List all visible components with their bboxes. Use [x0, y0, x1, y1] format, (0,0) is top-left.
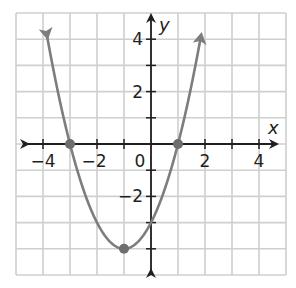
y-tick-label: −2 [118, 186, 143, 206]
x-tick-label: 4 [254, 151, 265, 171]
x-tick-label: −4 [30, 151, 55, 171]
parabola-graph: −4−202442−2 x y [0, 0, 296, 288]
x-intercept-right-point [173, 139, 183, 149]
y-tick-label: 2 [132, 82, 143, 102]
x-intercept-left-point [65, 139, 75, 149]
y-axis-label: y [158, 14, 170, 35]
x-tick-label: 0 [135, 151, 146, 171]
x-tick-label: 2 [200, 151, 211, 171]
vertex-point [119, 244, 129, 254]
x-axis-label: x [267, 117, 279, 138]
y-tick-label: 4 [132, 29, 143, 49]
x-tick-label: −2 [81, 151, 106, 171]
